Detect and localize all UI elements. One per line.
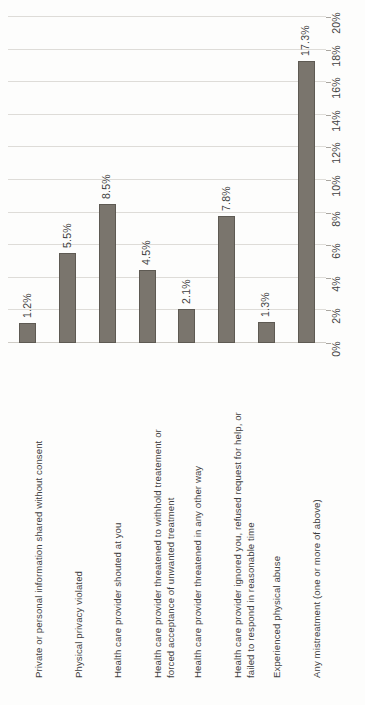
- bar-value-label: 17.3%: [299, 25, 311, 56]
- category-label-line: forced acceptance of unwanted treatment: [164, 348, 177, 678]
- gridline: [8, 114, 326, 115]
- category-label-line: failed to respond in reasonable time: [244, 348, 257, 678]
- gridline: [8, 309, 326, 310]
- bar-value-label: 4.5%: [140, 240, 152, 265]
- axis-tick-label: 4%: [330, 276, 342, 292]
- bar-value-label: 5.5%: [61, 224, 73, 249]
- bar: [258, 322, 275, 343]
- bar: [139, 270, 156, 343]
- bar: [59, 253, 76, 343]
- category-label-line: Any mistreatment (one or more of above): [310, 348, 323, 678]
- plot-area: 1.2%5.5%8.5%4.5%2.1%7.8%1.3%17.3%: [8, 17, 326, 343]
- category-axis-label: Any mistreatment (one or more of above): [310, 348, 323, 678]
- axis-tick-label: 14%: [330, 110, 342, 132]
- gridline: [8, 16, 326, 17]
- axis-tick-label: 8%: [330, 211, 342, 227]
- gridline: [8, 146, 326, 147]
- category-axis-label: Experienced physical abuse: [270, 348, 283, 678]
- category-axis-label: Physical privacy violated: [72, 348, 85, 678]
- category-axis: Private or personal information shared w…: [0, 348, 330, 705]
- category-label-line: Health care provider shouted at you: [111, 348, 124, 678]
- gridline: [8, 49, 326, 50]
- category-label-line: Private or personal information shared w…: [32, 348, 45, 678]
- bar: [218, 216, 235, 343]
- category-label-line: Physical privacy violated: [72, 348, 85, 678]
- bar-value-label: 7.8%: [220, 186, 232, 211]
- value-axis: 0%2%4%6%8%10%12%14%16%18%20%: [326, 17, 365, 343]
- axis-tick-label: 0%: [330, 341, 342, 357]
- bar: [19, 323, 36, 343]
- category-axis-label: Health care provider shouted at you: [111, 348, 124, 678]
- axis-tick-label: 20%: [330, 12, 342, 34]
- category-axis-label: Health care provider threatened to withh…: [151, 348, 177, 678]
- bar-value-label: 2.1%: [180, 279, 192, 304]
- chart-figure: 1.2%5.5%8.5%4.5%2.1%7.8%1.3%17.3% 0%2%4%…: [0, 0, 365, 705]
- category-label-line: Health care provider threatened in any o…: [191, 348, 204, 678]
- bar: [178, 309, 195, 343]
- category-label-line: Experienced physical abuse: [270, 348, 283, 678]
- gridline: [8, 244, 326, 245]
- axis-tick-label: 6%: [330, 243, 342, 259]
- axis-tick-label: 2%: [330, 309, 342, 325]
- category-axis-label: Private or personal information shared w…: [32, 348, 45, 678]
- axis-baseline: [8, 342, 326, 343]
- category-label-line: Health care provider threatened to withh…: [151, 348, 164, 678]
- category-axis-label: Health care provider threatened in any o…: [191, 348, 204, 678]
- axis-tick-label: 12%: [330, 143, 342, 165]
- gridline: [8, 277, 326, 278]
- gridline: [8, 212, 326, 213]
- bar-value-label: 1.2%: [21, 294, 33, 319]
- gridline: [8, 179, 326, 180]
- bar-value-label: 1.3%: [259, 292, 271, 317]
- category-label-line: Health care provider ignored you, refuse…: [231, 348, 244, 678]
- axis-tick-label: 16%: [330, 77, 342, 99]
- bar: [298, 61, 315, 343]
- gridline: [8, 81, 326, 82]
- bar: [99, 204, 116, 343]
- axis-tick-label: 18%: [330, 45, 342, 67]
- bar-value-label: 8.5%: [100, 175, 112, 200]
- category-axis-label: Health care provider ignored you, refuse…: [231, 348, 257, 678]
- axis-tick-label: 10%: [330, 175, 342, 197]
